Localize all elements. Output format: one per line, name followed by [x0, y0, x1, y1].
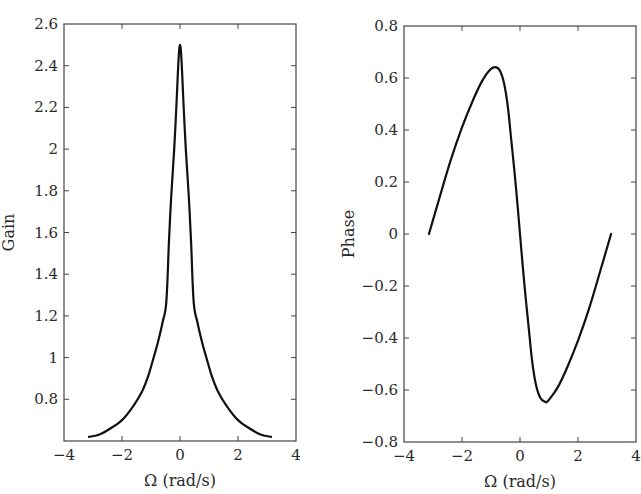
y-tick-label: −0.4 — [362, 329, 398, 347]
y-tick-label: −0.2 — [362, 277, 398, 295]
y-tick-label: 2.4 — [34, 57, 58, 75]
gain-axes-frame — [64, 24, 296, 441]
x-tick-label: 2 — [573, 447, 583, 465]
x-tick-label: 4 — [631, 447, 641, 465]
gain-y-axis-label: Gain — [0, 214, 18, 252]
y-tick-label: −0.6 — [362, 381, 398, 399]
y-tick-label: 2.6 — [34, 15, 58, 33]
y-tick-label: 1 — [48, 349, 58, 367]
y-tick-label: 0.2 — [374, 173, 398, 191]
y-tick-label: 0.6 — [374, 69, 398, 87]
y-tick-label: 0.4 — [374, 121, 398, 139]
gain-x-axis-label: Ω (rad/s) — [144, 471, 216, 490]
phase-chart: −4−2024−0.8−0.6−0.4−0.200.20.40.60.8Ω (r… — [339, 17, 641, 491]
x-tick-label: 0 — [175, 446, 185, 464]
y-tick-label: 1.6 — [34, 224, 58, 242]
y-tick-label: 1.8 — [34, 182, 58, 200]
x-tick-label: −4 — [53, 446, 75, 464]
x-tick-label: 4 — [291, 446, 301, 464]
x-tick-label: 0 — [515, 447, 525, 465]
y-tick-label: 0.8 — [34, 390, 58, 408]
y-tick-label: 2.2 — [34, 98, 58, 116]
y-tick-label: 0.8 — [374, 17, 398, 35]
x-tick-label: −2 — [111, 446, 133, 464]
y-tick-label: −0.8 — [362, 433, 398, 451]
y-tick-label: 0 — [388, 225, 398, 243]
figure: −4−20240.811.21.41.61.822.22.42.6Ω (rad/… — [0, 0, 641, 494]
phase-x-axis-label: Ω (rad/s) — [484, 472, 556, 491]
x-tick-label: 2 — [233, 446, 243, 464]
gain-chart: −4−20240.811.21.41.61.822.22.42.6Ω (rad/… — [0, 15, 301, 490]
phase-y-axis-label: Phase — [339, 210, 358, 258]
y-tick-label: 1.2 — [34, 307, 58, 325]
x-tick-label: −2 — [451, 447, 473, 465]
y-tick-label: 1.4 — [34, 265, 58, 283]
phase-curve — [429, 67, 611, 402]
y-tick-label: 2 — [48, 140, 58, 158]
gain-curve — [89, 45, 271, 437]
